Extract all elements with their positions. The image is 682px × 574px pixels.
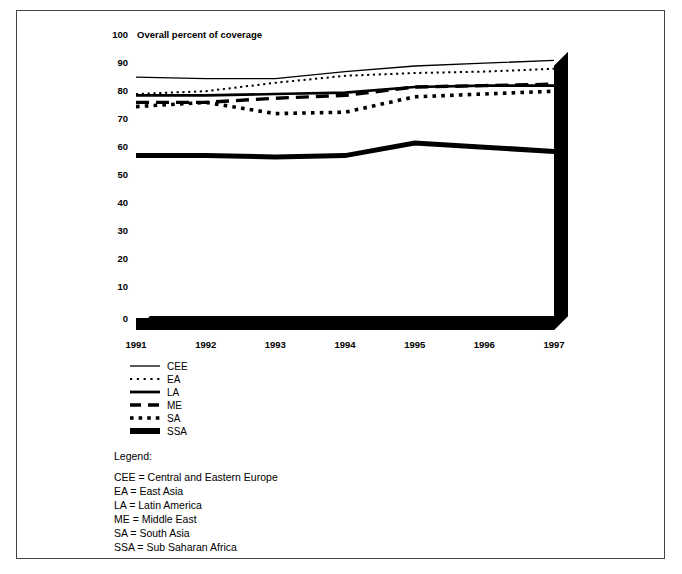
x-tick-1994: 1994	[334, 339, 356, 350]
y-tick-90: 90	[117, 57, 128, 68]
y-tick-50: 50	[117, 169, 128, 180]
figure-page: 100 90 80 70 60 50 40 30 20 10 0 Overall…	[0, 0, 682, 574]
legend-note-sa: SA = South Asia	[114, 527, 190, 539]
y-tick-100: 100	[112, 29, 128, 40]
legend-item-la[interactable]: LA	[130, 387, 180, 398]
y-tick-80: 80	[117, 85, 128, 96]
legend-label-la: LA	[167, 387, 180, 398]
x-tick-1997: 1997	[543, 339, 564, 350]
x-tick-1991: 1991	[125, 339, 147, 350]
legend-label-sa: SA	[167, 413, 181, 424]
legend-item-sa[interactable]: SA	[130, 413, 181, 424]
chart-title: Overall percent of coverage	[137, 29, 262, 40]
y-tick-60: 60	[117, 141, 128, 152]
legend-notes: Legend: CEE = Central and Eastern Europe…	[114, 450, 278, 553]
legend-note-cee: CEE = Central and Eastern Europe	[114, 471, 278, 483]
y-tick-40: 40	[117, 197, 128, 208]
chart-legend: CEE EA LA ME SA	[130, 361, 188, 437]
x-tick-1993: 1993	[265, 339, 286, 350]
chart-right-wall-3d	[554, 52, 568, 330]
line-chart: 100 90 80 70 60 50 40 30 20 10 0 Overall…	[0, 0, 682, 574]
y-axis-tick-labels: 100 90 80 70 60 50 40 30 20 10 0	[112, 29, 128, 324]
x-tick-1992: 1992	[195, 339, 216, 350]
legend-label-cee: CEE	[167, 361, 188, 372]
x-axis-tick-labels: 1991 1992 1993 1994 1995 1996 1997	[125, 339, 564, 350]
legend-item-ea[interactable]: EA	[130, 374, 181, 385]
legend-label-me: ME	[167, 400, 182, 411]
chart-floor-3d	[136, 316, 568, 330]
series-line-ssa	[136, 143, 554, 157]
legend-notes-heading: Legend:	[114, 450, 152, 462]
legend-note-ssa: SSA = Sub Saharan Africa	[114, 541, 237, 553]
series-line-ea	[136, 69, 554, 94]
legend-label-ea: EA	[167, 374, 181, 385]
y-tick-30: 30	[117, 225, 128, 236]
legend-item-cee[interactable]: CEE	[130, 361, 188, 372]
legend-item-ssa[interactable]: SSA	[130, 426, 187, 437]
y-tick-70: 70	[117, 113, 128, 124]
x-tick-1995: 1995	[404, 339, 426, 350]
legend-note-me: ME = Middle East	[114, 513, 197, 525]
y-tick-0: 0	[123, 313, 128, 324]
y-tick-10: 10	[117, 281, 128, 292]
legend-label-ssa: SSA	[167, 426, 187, 437]
legend-item-me[interactable]: ME	[130, 400, 182, 411]
legend-note-ea: EA = East Asia	[114, 485, 183, 497]
legend-note-la: LA = Latin America	[114, 499, 202, 511]
x-tick-1996: 1996	[474, 339, 495, 350]
y-tick-20: 20	[117, 253, 128, 264]
